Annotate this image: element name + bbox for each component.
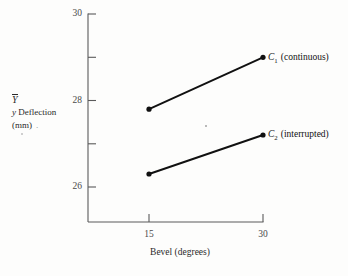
stray-speck-icon: .: [36, 120, 38, 131]
series-label-c2-text: (interrupted): [281, 129, 329, 139]
series-c2-point-15: [146, 171, 151, 176]
series-label-c2: C2(interrupted): [268, 130, 329, 142]
paper-speck-icon: [205, 125, 207, 127]
x-axis-title: Bevel (degrees): [120, 247, 240, 257]
series-c1-point-15: [146, 107, 151, 112]
paper-speck-secondary-icon: [21, 133, 23, 135]
y-axis-title-deflection: Deflection: [18, 107, 56, 117]
series-c2-point-30: [260, 132, 265, 137]
y-axis-title-italic-y: y: [12, 107, 16, 117]
y-axis-title-units: (mm): [12, 120, 32, 130]
series-label-c2-subscript: 2: [274, 134, 277, 141]
series-label-c1-subscript: 1: [274, 57, 277, 64]
y-axis-title-line2: y Deflection: [12, 107, 74, 118]
series-c1-point-30: [260, 55, 265, 60]
y-axis-title-line3: (mm).: [12, 120, 74, 131]
y-axis-title: Y y Deflection (mm).: [12, 94, 74, 131]
series-c2-line: [149, 135, 263, 174]
series-label-c1-text: (continuous): [281, 52, 329, 62]
x-tick-label-15: 15: [134, 230, 164, 240]
y-bar-symbol: Y: [12, 94, 18, 106]
x-tick-label-30: 30: [248, 230, 278, 240]
figure-container: 30 28 26 15 30 Y y Deflection (mm). Beve…: [0, 0, 348, 276]
series-label-c1: C1(continuous): [268, 53, 329, 65]
y-tick-label-30: 30: [56, 9, 82, 19]
y-tick-label-26: 26: [56, 182, 82, 192]
series-c1-line: [149, 57, 263, 109]
